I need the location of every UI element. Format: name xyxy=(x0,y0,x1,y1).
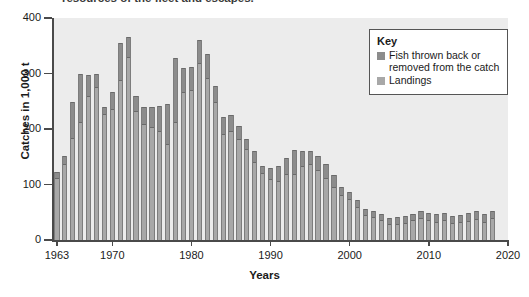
bar-segment-landings xyxy=(309,163,312,240)
bar-segment-landings xyxy=(324,177,327,240)
bar-segment-discards xyxy=(459,215,462,223)
bar-2017 xyxy=(482,214,487,240)
bar-segment-discards xyxy=(229,115,232,132)
y-tick xyxy=(44,17,52,19)
bar-1964 xyxy=(62,156,67,240)
bar-2005 xyxy=(387,218,392,240)
bar-1973 xyxy=(133,96,138,240)
bar-segment-discards xyxy=(332,175,335,188)
bar-segment-landings xyxy=(214,101,217,240)
bar-segment-discards xyxy=(222,117,225,136)
bar-1977 xyxy=(165,104,170,240)
bar-segment-discards xyxy=(253,151,256,162)
bar-segment-discards xyxy=(388,218,391,225)
bar-segment-discards xyxy=(435,214,438,222)
bar-segment-discards xyxy=(411,214,414,222)
bar-segment-landings xyxy=(158,130,161,240)
bar-1968 xyxy=(94,74,99,241)
bar-segment-discards xyxy=(277,166,280,182)
bar-segment-landings xyxy=(380,219,383,240)
bar-segment-discards xyxy=(261,166,264,174)
bar-segment-discards xyxy=(245,139,248,150)
bar-1969 xyxy=(102,107,107,240)
bar-1970 xyxy=(110,92,115,240)
bar-1967 xyxy=(86,75,91,240)
y-tick-label: 400 xyxy=(0,11,41,23)
bar-segment-landings xyxy=(483,221,486,240)
bar-1988 xyxy=(252,151,257,240)
bar-segment-landings xyxy=(277,180,280,240)
legend-title: Key xyxy=(377,35,500,47)
bar-segment-discards xyxy=(166,104,169,145)
bar-2010 xyxy=(426,213,431,240)
bar-segment-discards xyxy=(443,213,446,222)
legend-item-discards: Fish thrown back or removed from the cat… xyxy=(377,50,500,73)
bar-segment-discards xyxy=(190,67,193,91)
bar-1997 xyxy=(323,164,328,240)
bar-segment-landings xyxy=(142,123,145,240)
x-tick-label: 1980 xyxy=(179,249,203,261)
x-tick-label: 2020 xyxy=(496,249,520,261)
bar-2001 xyxy=(355,200,360,241)
bar-2002 xyxy=(363,209,368,240)
bar-segment-landings xyxy=(332,186,335,240)
x-tick xyxy=(270,241,272,246)
x-tick xyxy=(349,241,351,246)
bar-segment-discards xyxy=(237,126,240,140)
bar-2016 xyxy=(474,211,479,240)
bar-2004 xyxy=(379,214,384,240)
bar-2015 xyxy=(466,213,471,240)
bar-2003 xyxy=(371,211,376,240)
bar-1983 xyxy=(213,86,218,240)
bar-2007 xyxy=(403,216,408,240)
y-axis-title: Catches in 1,000 t xyxy=(19,36,31,186)
bar-segment-landings xyxy=(427,219,430,240)
bar-2006 xyxy=(395,217,400,240)
bar-segment-landings xyxy=(119,79,122,240)
bar-segment-discards xyxy=(364,209,367,217)
bar-segment-landings xyxy=(443,219,446,240)
legend-swatch-discards xyxy=(377,52,385,60)
bar-2018 xyxy=(490,211,495,240)
x-tick-label: 1970 xyxy=(100,249,124,261)
bar-segment-discards xyxy=(380,214,383,220)
y-tick xyxy=(44,73,52,75)
bar-1980 xyxy=(189,67,194,240)
x-tick-label: 1963 xyxy=(45,249,69,261)
bar-segment-landings xyxy=(348,198,351,240)
bar-1991 xyxy=(276,166,281,240)
bar-segment-landings xyxy=(475,218,478,240)
bar-segment-landings xyxy=(372,216,375,240)
bar-segment-discards xyxy=(111,92,114,110)
bar-1978 xyxy=(173,58,178,240)
bar-segment-landings xyxy=(206,77,209,240)
bar-segment-discards xyxy=(174,58,177,123)
bar-segment-landings xyxy=(150,126,153,240)
bar-1986 xyxy=(236,126,241,240)
bar-segment-discards xyxy=(142,107,145,126)
x-tick xyxy=(507,241,509,246)
bar-1990 xyxy=(268,168,273,240)
x-tick xyxy=(428,241,430,246)
bar-segment-landings xyxy=(79,121,82,240)
x-tick-label: 2010 xyxy=(417,249,441,261)
bar-segment-landings xyxy=(396,223,399,240)
bar-segment-discards xyxy=(150,107,153,128)
bar-segment-discards xyxy=(79,74,82,123)
bar-segment-discards xyxy=(467,213,470,222)
x-tick-label: 1990 xyxy=(258,249,282,261)
legend-label-landings: Landings xyxy=(389,75,432,87)
bar-segment-landings xyxy=(301,165,304,240)
bar-segment-landings xyxy=(411,219,414,240)
bar-segment-landings xyxy=(222,133,225,240)
bar-segment-landings xyxy=(229,130,232,240)
bar-segment-discards xyxy=(301,151,304,166)
bar-segment-landings xyxy=(340,194,343,240)
bar-segment-discards xyxy=(316,156,319,171)
x-axis-line xyxy=(52,240,509,242)
bar-1989 xyxy=(260,166,265,240)
bar-2000 xyxy=(347,192,352,240)
y-tick xyxy=(44,239,52,241)
bar-2012 xyxy=(442,213,447,240)
bar-1987 xyxy=(244,139,249,240)
